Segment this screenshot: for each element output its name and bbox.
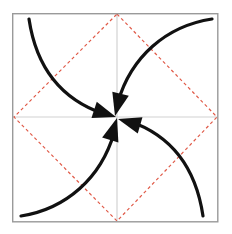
pinwheel-diagram (0, 0, 232, 234)
figure-canvas: 図 2 に示すように引き込み (0, 0, 232, 234)
